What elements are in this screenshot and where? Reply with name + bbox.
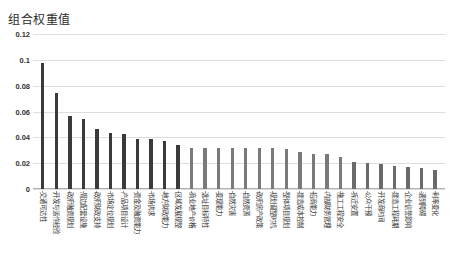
bar-series xyxy=(33,34,445,189)
x-label-slot: 周边配套设施 xyxy=(77,191,91,257)
bar xyxy=(68,116,71,189)
x-axis-tick-label: 资金及融资能力 xyxy=(134,192,140,234)
x-label-slot: 建造成本控制 xyxy=(293,191,307,257)
bar xyxy=(339,157,342,189)
x-label-slot: 内部财务管理 xyxy=(320,191,334,257)
bar xyxy=(163,141,166,189)
bar-slot xyxy=(266,34,280,189)
bar-slot xyxy=(171,34,185,189)
bar xyxy=(190,148,193,189)
x-label-slot: 资金及融资能力 xyxy=(131,191,145,257)
x-axis-tick-label: 政府房产政策 xyxy=(256,192,262,228)
bar xyxy=(231,148,234,189)
x-label-slot: 招商能力 xyxy=(307,191,321,257)
bar-slot xyxy=(144,34,158,189)
x-label-slot: 产品项目设计 xyxy=(117,191,131,257)
x-axis-tick-label: 商业地产价格 xyxy=(188,192,194,228)
x-axis-tick-label: 规划调整时机 xyxy=(270,192,276,228)
bar-slot xyxy=(50,34,64,189)
x-axis-tick-label: 周边配套设施 xyxy=(80,192,86,228)
bar xyxy=(285,149,288,189)
x-axis-tick-label: 政府财政支持 xyxy=(94,192,100,228)
x-label-slot: 选址目标特性 xyxy=(198,191,212,257)
x-axis-tick-label: 选址目标特性 xyxy=(202,192,208,228)
bar-slot xyxy=(77,34,91,189)
bar-slot xyxy=(131,34,145,189)
y-axis-tick-label: 0.12 xyxy=(2,30,30,39)
bar xyxy=(176,145,179,189)
bar xyxy=(41,63,44,189)
x-axis-tick-label: 自然资源 xyxy=(243,192,249,216)
bar xyxy=(298,152,301,189)
bar xyxy=(217,148,220,189)
bar-slot xyxy=(212,34,226,189)
bar xyxy=(95,129,98,189)
bar-slot xyxy=(239,34,253,189)
x-label-slot: 商业地产价格 xyxy=(185,191,199,257)
bar-slot xyxy=(104,34,118,189)
bar-slot xyxy=(415,34,429,189)
x-axis-tick-label: 遇到障碍 xyxy=(418,192,424,216)
bar xyxy=(203,148,206,189)
x-label-slot: 规划调整时机 xyxy=(266,191,280,257)
bar-slot xyxy=(90,34,104,189)
bar xyxy=(433,170,436,189)
bar-slot xyxy=(158,34,172,189)
x-axis-tick-label: 产品项目设计 xyxy=(121,192,127,228)
plot-area: 00.020.040.060.080.10.12 xyxy=(33,34,445,189)
bar xyxy=(244,148,247,189)
y-axis-tick-label: 0.08 xyxy=(2,81,30,90)
bar-slot xyxy=(307,34,321,189)
bar-slot xyxy=(293,34,307,189)
x-label-slot: 整体项目规划 xyxy=(280,191,294,257)
bar-slot xyxy=(280,34,294,189)
x-axis-tick-label: 利率变化 xyxy=(432,192,438,216)
bar-slot xyxy=(347,34,361,189)
x-label-slot: 交通可达性 xyxy=(36,191,50,257)
chart-title: 组合权重值 xyxy=(8,10,71,27)
bar-slot xyxy=(361,34,375,189)
x-label-slot: 政府财政支持 xyxy=(90,191,104,257)
bar xyxy=(420,168,423,189)
x-label-slot: 政府融资规划 xyxy=(63,191,77,257)
bar xyxy=(325,154,328,189)
bar xyxy=(149,139,152,189)
bar xyxy=(379,164,382,189)
x-label-slot: 自然资源 xyxy=(239,191,253,257)
x-axis-tick-label: 拆迁安置 xyxy=(351,192,357,216)
x-label-slot: 利率变化 xyxy=(428,191,442,257)
y-axis-tick-label: 0.02 xyxy=(2,159,30,168)
bar xyxy=(406,167,409,189)
x-axis-tick-label: 建造工程耗期 xyxy=(391,192,397,228)
bar-slot xyxy=(388,34,402,189)
x-label-slot: 开发商时间 xyxy=(374,191,388,257)
bar-slot xyxy=(63,34,77,189)
x-label-slot: 遇到障碍 xyxy=(415,191,429,257)
x-axis-tick-label: 施工工程安全 xyxy=(337,192,343,228)
x-axis-tick-label: 开发商时间 xyxy=(378,192,384,222)
x-axis-tick-label: 公众干预 xyxy=(364,192,370,216)
x-label-slot: 市场定位规划 xyxy=(104,191,118,257)
bar xyxy=(122,134,125,189)
bar xyxy=(258,148,261,189)
bar-slot xyxy=(428,34,442,189)
x-axis-tick-label: 内部财务管理 xyxy=(324,192,330,228)
x-axis-tick-label: 交通可达性 xyxy=(40,192,46,222)
bar-slot xyxy=(253,34,267,189)
x-label-slot: 政府房产政策 xyxy=(253,191,267,257)
bar xyxy=(109,133,112,189)
bar-slot xyxy=(225,34,239,189)
x-label-slot: 开发与运作经验 xyxy=(50,191,64,257)
combined-weight-bar-chart: 组合权重值 00.020.040.060.080.10.12 交通可达性开发与运… xyxy=(0,0,452,275)
x-axis-tick-label: 自然灾害 xyxy=(229,192,235,216)
bar xyxy=(271,148,274,189)
bar-slot xyxy=(198,34,212,189)
bar xyxy=(136,139,139,189)
bar-slot xyxy=(334,34,348,189)
x-label-slot: 建造工程耗期 xyxy=(388,191,402,257)
bar xyxy=(366,163,369,189)
bar xyxy=(82,119,85,189)
x-label-slot: 企业信誉影响 xyxy=(401,191,415,257)
x-axis-labels: 交通可达性开发与运作经验政府融资规划周边配套设施政府财政支持市场定位规划产品项目… xyxy=(33,191,445,257)
x-label-slot: 公众干预 xyxy=(361,191,375,257)
